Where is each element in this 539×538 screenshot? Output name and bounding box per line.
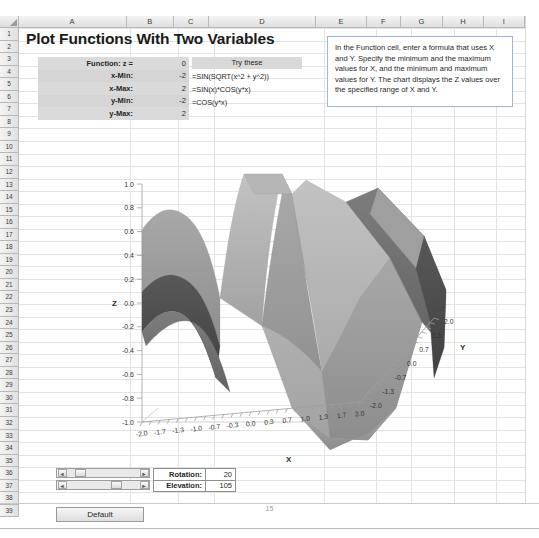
column-header-f[interactable]: F [367,16,401,28]
x-tick-label: 1.7 [336,411,346,419]
column-header-c[interactable]: C [174,16,209,28]
row-header-2[interactable]: 2 [0,41,19,54]
x-tick-mark [240,413,242,417]
row-header-15[interactable]: 15 [0,204,19,217]
parameter-value[interactable]: -2 [136,95,189,108]
row-header-37[interactable]: 37 [0,480,19,493]
row-header-6[interactable]: 6 [0,91,19,104]
y-tick-label: 2.0 [444,318,454,325]
row-header-4[interactable]: 4 [0,66,19,79]
parameter-value[interactable]: 2 [136,107,189,120]
row-header-13[interactable]: 13 [0,179,19,192]
y-tick-mark [418,337,423,339]
z-axis-ticks [137,184,142,422]
try-these-formula: =COS(y*x) [192,98,227,107]
x-tick-label: -0.3 [226,421,239,429]
column-header-a[interactable]: A [19,16,127,28]
column-header-d[interactable]: D [209,16,316,28]
elevation-scrollbar[interactable]: ◄ ► [56,480,150,490]
row-header-14[interactable]: 14 [0,191,19,204]
z-tick-label: 0.0 [124,300,134,307]
sheet-right-margin [525,16,539,503]
row-header-29[interactable]: 29 [0,379,19,392]
row-header-25[interactable]: 25 [0,329,19,342]
row-header-7[interactable]: 7 [0,103,19,116]
row-header-32[interactable]: 32 [0,417,19,430]
z-tick-labels: 1.00.80.60.40.20.0-0.2-0.4-0.6-0.8-1.0 [122,181,134,426]
rotation-scrollbar[interactable]: ◄ ► [56,468,150,478]
row-header-30[interactable]: 30 [0,392,19,405]
select-all-corner[interactable] [0,16,19,28]
row-header-20[interactable]: 20 [0,266,19,279]
rotation-scroll-right-arrow[interactable]: ► [140,469,149,477]
row-header-23[interactable]: 23 [0,304,19,317]
row-header-column: 1234567891011121314151617181920212223242… [0,28,19,517]
surface-chart[interactable]: 1.00.80.60.40.20.0-0.2-0.4-0.6-0.8-1.0 -… [30,140,500,465]
x-axis-title: X [286,455,292,464]
x-tick-mark [213,415,215,419]
x-tick-mark [231,414,233,418]
row-header-3[interactable]: 3 [0,53,19,66]
row-header-1[interactable]: 1 [0,28,19,41]
row-header-17[interactable]: 17 [0,229,19,242]
row-header-18[interactable]: 18 [0,241,19,254]
x-tick-mark [267,410,269,414]
worksheet: ABCDEFGHI 123456789101112131415161718192… [0,0,539,538]
parameter-row: y-Min:-2 [38,95,189,108]
row-header-26[interactable]: 26 [0,342,19,355]
row-header-9[interactable]: 9 [0,128,19,141]
elevation-scroll-left-arrow[interactable]: ◄ [58,481,67,489]
parameter-label: x-Max: [38,82,136,95]
row-header-12[interactable]: 12 [0,166,19,179]
row-header-36[interactable]: 36 [0,467,19,480]
column-header-g[interactable]: G [401,16,443,28]
rotation-scroll-thumb[interactable] [75,469,86,477]
row-header-28[interactable]: 28 [0,367,19,380]
x-tick-label: 1.0 [300,414,310,422]
x-tick-mark [249,412,251,416]
z-tick-label: -0.4 [122,347,134,354]
row-header-11[interactable]: 11 [0,153,19,166]
row-header-33[interactable]: 33 [0,430,19,443]
x-tick-mark [258,411,260,415]
row-header-19[interactable]: 19 [0,254,19,267]
rotation-value[interactable]: 20 [206,469,236,481]
x-tick-label: 0.0 [246,419,256,427]
parameter-label: y-Max: [38,107,136,120]
row-header-21[interactable]: 21 [0,279,19,292]
row-header-31[interactable]: 31 [0,404,19,417]
column-header-b[interactable]: B [127,16,174,28]
row-header-10[interactable]: 10 [0,141,19,154]
elevation-scroll-thumb[interactable] [111,481,122,489]
row-header-27[interactable]: 27 [0,354,19,367]
x-tick-mark [185,418,187,422]
row-header-16[interactable]: 16 [0,216,19,229]
parameter-value[interactable]: -2 [136,70,189,83]
z-tick-label: -0.6 [122,371,134,378]
rotation-scroll-left-arrow[interactable]: ◄ [58,469,67,477]
z-tick-label: -0.8 [122,395,134,402]
row-header-34[interactable]: 34 [0,442,19,455]
column-header-h[interactable]: H [443,16,484,28]
z-axis-title: Z [112,299,117,308]
column-header-e[interactable]: E [316,16,367,28]
rotation-scroll-track[interactable] [67,469,139,477]
row-header-5[interactable]: 5 [0,78,19,91]
elevation-row: Elevation: 105 [154,480,236,492]
column-header-i[interactable]: I [484,16,525,28]
row-header-24[interactable]: 24 [0,317,19,330]
parameter-value[interactable]: 0 [136,57,189,70]
row-header-22[interactable]: 22 [0,291,19,304]
row-header-35[interactable]: 35 [0,455,19,468]
y-tick-label: -2.0 [370,402,382,409]
parameter-value[interactable]: 2 [136,82,189,95]
elevation-value[interactable]: 105 [206,480,236,492]
elevation-scroll-track[interactable] [67,481,139,489]
column-header-row: ABCDEFGHI [0,16,525,28]
y-tick-mark [422,332,427,334]
grid-row-line [19,128,525,129]
elevation-scroll-right-arrow[interactable]: ► [140,481,149,489]
row-header-8[interactable]: 8 [0,116,19,129]
try-these-formula: =SIN(x)*COS(y*x) [192,85,251,94]
x-tick-label: 0.7 [282,416,292,424]
